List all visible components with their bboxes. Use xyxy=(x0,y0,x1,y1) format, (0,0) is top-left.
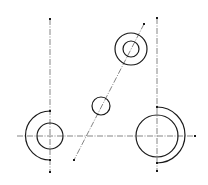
left-arc-end-point xyxy=(49,159,51,161)
left-top-point xyxy=(49,18,51,20)
right-arc-end-point xyxy=(156,162,158,164)
technical-drawing xyxy=(0,0,208,185)
left-bottom-point xyxy=(49,171,51,173)
diagonal-centerline xyxy=(74,24,144,160)
diagonal-top-point xyxy=(143,23,145,25)
drawing-canvas xyxy=(0,0,208,185)
horizontal-right-point xyxy=(194,135,196,137)
right-bottom-point xyxy=(156,170,158,172)
diagonal-bottom-point xyxy=(73,159,75,161)
right-arc-start-point xyxy=(156,106,158,108)
right-top-point xyxy=(156,17,158,19)
left-arc xyxy=(26,111,51,160)
middle-small-circle xyxy=(92,97,110,115)
left-arc-start-point xyxy=(49,110,51,112)
